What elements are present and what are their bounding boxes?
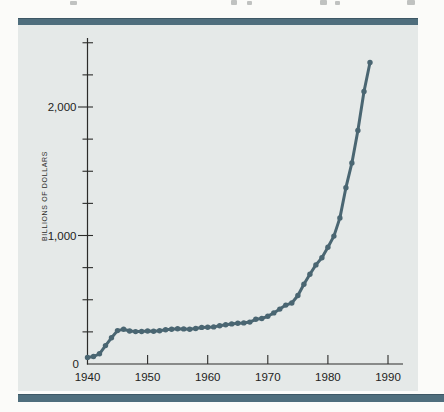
data-point-marker (271, 310, 276, 315)
data-point-marker (241, 320, 246, 325)
data-point-marker (307, 272, 312, 277)
data-point-marker (97, 351, 102, 356)
data-point-marker (289, 300, 294, 305)
y-tick-label: 2,000 (48, 101, 77, 113)
data-point-marker (199, 325, 204, 330)
data-point-marker (313, 262, 318, 267)
data-point-marker (151, 329, 156, 334)
x-tick-label: 1960 (195, 371, 221, 383)
data-point-marker (361, 89, 366, 94)
data-point-marker (337, 215, 342, 220)
data-point-marker (187, 327, 192, 332)
data-point-marker (181, 326, 186, 331)
data-point-marker (211, 324, 216, 329)
data-point-marker (217, 323, 222, 328)
data-point-marker (235, 321, 240, 326)
data-point-marker (109, 335, 114, 340)
data-point-marker (295, 293, 300, 298)
data-point-marker (367, 60, 372, 65)
x-tick-label: 1990 (375, 371, 401, 383)
data-point-marker (103, 343, 108, 348)
data-point-marker (277, 306, 282, 311)
y-tick-label: 0 (73, 358, 79, 370)
data-point-marker (85, 355, 90, 360)
book-page-figure: BILLIONS OF DOLLARS 01,0002,000194019501… (0, 0, 444, 412)
data-point-marker (157, 328, 162, 333)
national-debt-line-chart: 01,0002,000194019501960197019801990 (0, 0, 444, 412)
data-point-marker (343, 185, 348, 190)
data-point-marker (265, 314, 270, 319)
data-point-marker (247, 319, 252, 324)
x-tick-label: 1980 (315, 371, 341, 383)
data-point-marker (139, 329, 144, 334)
data-point-marker (259, 316, 264, 321)
data-point-marker (115, 328, 120, 333)
data-point-marker (349, 160, 354, 165)
data-point-marker (193, 326, 198, 331)
data-point-marker (331, 233, 336, 238)
data-point-marker (121, 327, 126, 332)
data-point-marker (253, 317, 258, 322)
data-point-marker (133, 329, 138, 334)
x-tick-label: 1950 (135, 371, 161, 383)
debt-series-line (88, 63, 371, 358)
data-point-marker (229, 321, 234, 326)
data-point-marker (319, 255, 324, 260)
x-tick-label: 1970 (255, 371, 281, 383)
data-point-marker (205, 325, 210, 330)
data-point-marker (283, 302, 288, 307)
data-point-marker (355, 128, 360, 133)
data-point-marker (163, 327, 168, 332)
data-point-marker (169, 327, 174, 332)
data-point-marker (145, 328, 150, 333)
data-point-marker (91, 354, 96, 359)
y-tick-label: 1,000 (48, 230, 77, 242)
data-point-marker (301, 282, 306, 287)
data-point-marker (175, 326, 180, 331)
data-point-marker (223, 322, 228, 327)
data-point-marker (127, 328, 132, 333)
x-tick-label: 1940 (75, 371, 101, 383)
data-point-marker (325, 245, 330, 250)
